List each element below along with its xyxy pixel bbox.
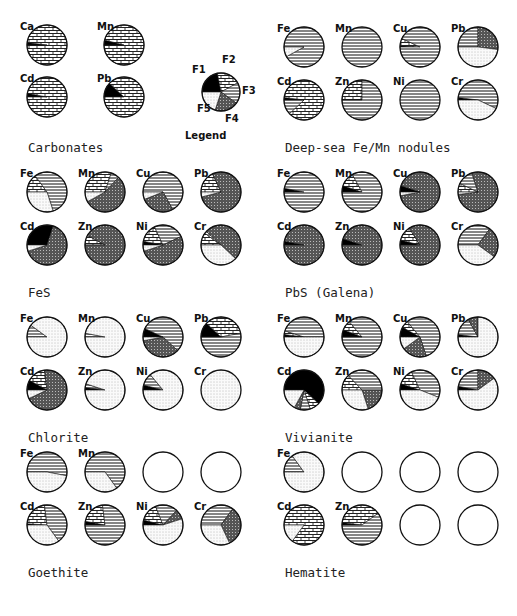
slice-F5 [284, 337, 324, 357]
element-label: Pb [97, 73, 112, 84]
panel-title: Vivianite [285, 430, 353, 445]
element-label: Cr [194, 366, 206, 377]
element-label: Cr [451, 221, 463, 232]
pie-Goethite-Pb [201, 452, 241, 492]
element-label: Mn [78, 313, 95, 324]
pie-Vivianite-Cr [458, 370, 498, 410]
pie-chart-figure: CaMnCdPbCarbonatesFeMnCuPbCdZnNiCrFeSFeM… [0, 0, 517, 616]
panel-deep-sea-fe-mn-nodules: FeMnCuPbCdZnNiCrDeep-sea Fe/Mn nodules [277, 23, 498, 155]
panel-title: Hematite [285, 565, 345, 580]
pie-Hematite-Cr [458, 505, 498, 545]
pie-grid: CaMnCdPbCarbonatesFeMnCuPbCdZnNiCrFeSFeM… [20, 21, 498, 580]
pie-FeS-Ni [143, 225, 183, 265]
element-label: Mn [335, 23, 352, 34]
pie-Chlorite-Ni [143, 370, 183, 410]
pie-Deep-sea Fe/Mn nodules-Cr [458, 80, 498, 120]
panel-title: Goethite [28, 565, 88, 580]
pie-Hematite-Pb [458, 452, 498, 492]
element-label: Fe [277, 23, 290, 34]
element-label: Cu [393, 168, 407, 179]
element-label: Cd [20, 73, 35, 84]
legend-key-f3: F3 [242, 85, 256, 96]
element-label: Fe [20, 448, 33, 459]
element-label: Cu [393, 23, 407, 34]
element-label: Pb [451, 313, 466, 324]
panel-title: Chlorite [28, 430, 88, 445]
panel-vivianite: FeMnCuPbCdZnNiCrVivianite [277, 313, 498, 445]
pie-PbS (Galena)-Ni [400, 225, 440, 265]
legend-key-f5: F5 [197, 103, 211, 114]
element-label: Zn [78, 501, 92, 512]
slice-F5 [458, 47, 498, 67]
element-label: Fe [277, 313, 290, 324]
element-label: Zn [78, 221, 92, 232]
legend-key-f4: F4 [225, 113, 239, 124]
element-label: Cd [20, 366, 35, 377]
element-label: Fe [20, 168, 33, 179]
panel-hematite: FeCdZnHematite [277, 448, 498, 580]
panel-goethite: FeMnCdZnNiCrGoethite [20, 448, 241, 580]
pie-FeS-Cr [201, 225, 241, 265]
legend-key-f1: F1 [192, 64, 206, 75]
pie-Vivianite-Ni [400, 370, 440, 410]
pie-PbS (Galena)-Cr [458, 225, 498, 265]
element-label: Zn [78, 366, 92, 377]
element-label: Ni [136, 221, 148, 232]
panel-title: Deep-sea Fe/Mn nodules [285, 140, 451, 155]
element-label: Fe [277, 448, 290, 459]
panel-pbs-galena-: FeMnCuPbCdZnNiCrPbS (Galena) [277, 168, 498, 300]
pie-Hematite-Cu [400, 452, 440, 492]
element-label: Cr [451, 76, 463, 87]
element-label: Cd [277, 76, 292, 87]
element-label: Ca [20, 21, 34, 32]
element-label: Zn [335, 501, 349, 512]
legend-title: Legend [185, 130, 226, 141]
element-label: Cu [393, 313, 407, 324]
element-label: Cd [20, 221, 35, 232]
panel-title: FeS [28, 285, 51, 300]
element-label: Mn [78, 448, 95, 459]
element-label: Cd [277, 221, 292, 232]
element-label: Cr [451, 366, 463, 377]
element-label: Cd [20, 501, 35, 512]
element-label: Pb [194, 313, 209, 324]
element-label: Ni [393, 76, 405, 87]
element-label: Pb [451, 168, 466, 179]
element-label: Cr [194, 501, 206, 512]
element-label: Ni [136, 501, 148, 512]
pie-Goethite-Ni [143, 505, 183, 545]
pie-Deep-sea Fe/Mn nodules-Ni [400, 80, 440, 120]
pie-Hematite-Ni [400, 505, 440, 545]
element-label: Ni [393, 221, 405, 232]
legend: F1F2F3F4F5Legend [185, 54, 256, 141]
pie-Hematite-Mn [342, 452, 382, 492]
element-label: Mn [97, 21, 114, 32]
element-label: Fe [20, 313, 33, 324]
panel-carbonates: CaMnCdPbCarbonates [20, 21, 144, 155]
pie-Goethite-Cr [201, 505, 241, 545]
element-label: Cu [136, 313, 150, 324]
element-label: Mn [335, 168, 352, 179]
element-label: Zn [335, 76, 349, 87]
element-label: Cd [277, 501, 292, 512]
element-label: Mn [78, 168, 95, 179]
element-label: Cd [277, 366, 292, 377]
element-label: Ni [136, 366, 148, 377]
element-label: Pb [451, 23, 466, 34]
element-label: Fe [277, 168, 290, 179]
slice-F5 [27, 472, 67, 492]
element-label: Pb [194, 168, 209, 179]
element-label: Cr [194, 221, 206, 232]
element-label: Zn [335, 366, 349, 377]
panel-title: PbS (Galena) [285, 285, 375, 300]
slice-F3 [201, 333, 241, 357]
element-label: Cu [136, 168, 150, 179]
element-label: Zn [335, 221, 349, 232]
pie-Goethite-Cu [143, 452, 183, 492]
panel-title: Carbonates [28, 140, 103, 155]
legend-key-f2: F2 [222, 54, 236, 65]
element-label: Ni [393, 366, 405, 377]
element-label: Mn [335, 313, 352, 324]
panel-fes: FeMnCuPbCdZnNiCrFeS [20, 168, 241, 300]
panel-chlorite: FeMnCuPbCdZnNiCrChlorite [20, 313, 241, 445]
